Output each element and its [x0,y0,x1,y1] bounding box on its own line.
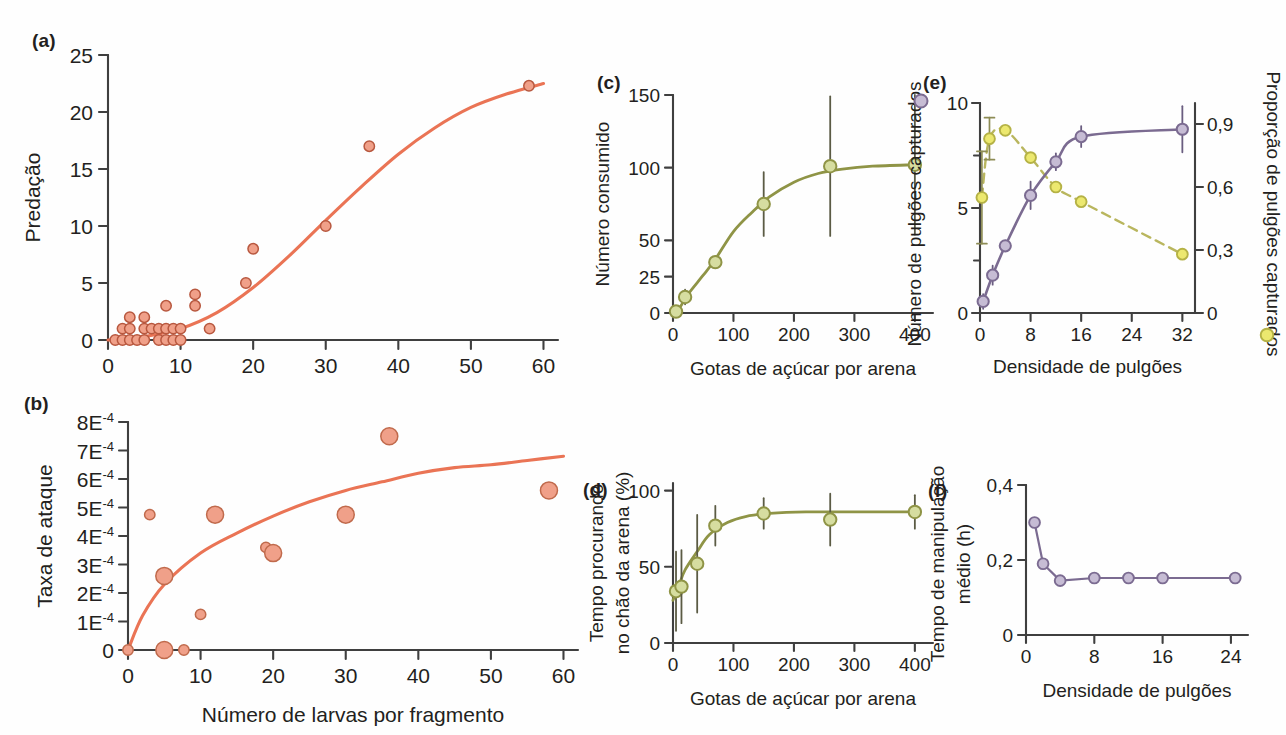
svg-text:5: 5 [81,272,93,295]
panel-d-plot: 0501000100200300400Tempo procurandono ch… [575,425,975,725]
data-point-captured [1177,124,1188,135]
scatter-point [265,545,282,562]
scatter-point [139,335,149,345]
data-point [1157,573,1168,584]
svg-text:25: 25 [70,44,93,67]
ytick-label: 7E-4 [77,439,114,463]
svg-text:0: 0 [102,354,114,377]
scatter-point [364,141,374,151]
scatter-point [207,506,224,523]
svg-text:100: 100 [628,481,660,502]
panel-b-label: (b) [24,393,49,415]
svg-text:24: 24 [1220,646,1242,667]
data-point [757,507,769,519]
panel-d-xlabel: Gotas de açúcar por arena [690,688,916,709]
ytick-label: 2E-4 [77,581,114,605]
panel-b-ylabel: Taxa de ataque [33,464,56,608]
scatter-point [139,312,149,322]
svg-text:30: 30 [314,354,337,377]
svg-text:60: 60 [532,354,555,377]
panel-f: (f) 00,20,4081624Tempo de manipulaçãoméd… [918,425,1286,725]
panel-e-label: (e) [923,72,947,94]
svg-text:50: 50 [639,557,660,578]
ytick-label: 5E-4 [77,496,114,520]
svg-text:100: 100 [628,158,660,179]
panel-a: (a) 05101520250102030405060Predação [0,0,600,400]
svg-text:20: 20 [241,354,264,377]
svg-text:15: 15 [70,158,93,181]
scatter-point [179,645,189,655]
scatter-point [195,609,205,619]
data-point-captured [1050,156,1061,167]
scatter-point [145,509,155,519]
scatter-point [156,567,173,584]
svg-text:20: 20 [70,101,93,124]
panel-a-ylabel: Predação [21,153,44,243]
svg-text:0,9: 0,9 [1207,114,1233,135]
data-point-captured [1000,240,1011,251]
data-point-captured [1025,190,1036,201]
svg-text:0,4: 0,4 [987,475,1014,496]
svg-text:200: 200 [778,654,810,675]
panel-d: (d) 0501000100200300400Tempo procurandon… [575,425,975,725]
svg-text:0: 0 [668,324,679,345]
panel-a-plot: 05101520250102030405060Predação [0,0,600,400]
legend-marker-proportion [1261,329,1274,342]
scatter-point [123,645,133,655]
panel-b-plot: 01E-42E-43E-44E-45E-46E-47E-48E-40102030… [0,380,620,735]
data-point [1038,558,1049,569]
data-point-captured [987,270,998,281]
svg-text:8: 8 [1089,646,1100,667]
data-point [670,305,682,317]
data-point-captured [1076,131,1087,142]
panel-e-xlabel: Densidade de pulgões [993,356,1182,377]
svg-text:60: 60 [552,664,575,687]
data-point [709,256,721,268]
panel-f-label: (f) [928,480,948,502]
svg-text:0: 0 [1002,625,1013,646]
panel-e-plot: 051000,30,60,908162432Número de pulgões … [895,55,1285,395]
scatter-point [337,506,354,523]
data-point-captured [978,296,989,307]
ytick-label: 1E-4 [77,610,114,634]
svg-text:8: 8 [1025,324,1036,345]
svg-text:25: 25 [639,267,660,288]
panel-e-ylabel-left: Número de pulgões capturados [904,81,925,346]
scatter-point [381,428,398,445]
svg-text:200: 200 [778,324,810,345]
svg-text:10: 10 [947,93,968,114]
data-point [757,198,769,210]
data-point [1230,573,1241,584]
panel-d-label: (d) [583,479,608,501]
scatter-point [175,335,185,345]
ytick-label: 8E-4 [77,410,114,434]
data-point [675,580,687,592]
data-point [824,513,836,525]
svg-text:100: 100 [718,654,750,675]
data-point [1055,575,1066,586]
svg-text:0,6: 0,6 [1207,177,1233,198]
panel-e: (e) 051000,30,60,908162432Número de pulg… [895,55,1285,395]
svg-text:150: 150 [628,85,660,106]
panel-f-ylabel-line2: médio (h) [953,524,974,604]
scatter-point [161,301,171,311]
svg-text:16: 16 [1152,646,1173,667]
svg-text:300: 300 [839,654,871,675]
svg-text:50: 50 [479,664,502,687]
svg-text:10: 10 [70,215,93,238]
data-point [679,291,691,303]
svg-text:0: 0 [668,654,679,675]
panel-c-xlabel: Gotas de açúcar por arena [690,358,916,379]
svg-text:32: 32 [1172,324,1193,345]
svg-text:0: 0 [1021,646,1032,667]
data-point-proportion [1000,125,1011,136]
shared-xlabel-ab: Número de larvas por fragmento [202,703,504,726]
scatter-point [241,278,251,288]
ytick-label: 3E-4 [77,553,114,577]
panel-c-label: (c) [597,72,621,94]
scatter-point [540,482,557,499]
panel-a-label: (a) [32,30,56,52]
svg-text:50: 50 [639,230,660,251]
panel-f-plot: 00,20,4081624Tempo de manipulaçãomédio (… [918,425,1286,725]
scatter-point [156,642,173,659]
